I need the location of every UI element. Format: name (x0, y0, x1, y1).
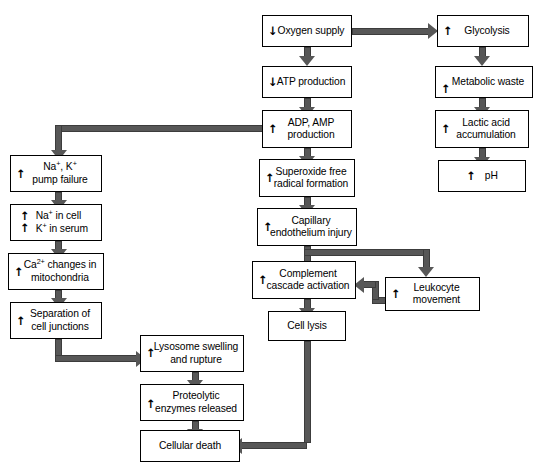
node-complement-cascade-activation[interactable]: ↑ Complementcascade activation (252, 261, 356, 299)
up-arrow-icon: ↑ (14, 266, 24, 277)
node-atp-production[interactable]: ↓ ATP production (262, 66, 352, 98)
node-label: Lactic acidaccumulation (438, 117, 526, 142)
node-oxygen-supply[interactable]: ↓ Oxygen supply (262, 15, 352, 47)
up-arrow-icon: ↑ (16, 315, 26, 326)
node-leukocyte-movement[interactable]: ↑ Leukocytemovement (385, 277, 480, 311)
node-label: Na+, K+pump failure (13, 161, 99, 186)
node-label: Lysosome swellingand rupture (143, 341, 241, 366)
up-arrow-icon: ↑ (146, 399, 156, 410)
row-label: K+ in serum (36, 223, 88, 235)
up-arrow-icon: ↑ (441, 124, 451, 135)
node-cellular-death[interactable]: Cellular death (140, 430, 240, 462)
up-arrow-icon: ↑ (441, 84, 451, 95)
node-proteolytic-enzymes-released[interactable]: ↑ Proteolyticenzymes released (140, 384, 244, 421)
node-lactic-acid-accumulation[interactable]: ↑ Lactic acidaccumulation (435, 110, 529, 148)
edge-oxygen-to-atp-head (299, 56, 315, 66)
edge-adp-to-pump-horizontal (55, 125, 263, 132)
node-label: Superoxide freeradical formation (262, 166, 352, 191)
up-arrow-icon: ↑ (16, 168, 26, 179)
edge-leukocyte-feedback-upper (362, 281, 376, 288)
up-arrow-icon: ↑ (466, 171, 476, 182)
node-label: Complementcascade activation (255, 268, 353, 293)
edge-capillary-to-leukocyte-head (418, 267, 434, 277)
down-arrow-icon: ↓ (268, 26, 278, 37)
up-arrow-icon: ↑ (146, 348, 156, 359)
edge-cell-lysis-horizontal (240, 442, 307, 449)
node-label: Proteolyticenzymes released (143, 390, 241, 415)
node-label: pH (479, 170, 498, 182)
node-label: Metabolic waste (438, 76, 530, 88)
flowchart-canvas: ↓ Oxygen supply ↓ ATP production ↑ ADP, … (0, 0, 536, 473)
up-arrow-icon: ↑ (391, 289, 401, 300)
up-arrow-icon: ↑ (265, 173, 275, 184)
up-arrow-icon: ↑ (258, 275, 268, 286)
up-arrow-icon: ↑ (20, 223, 30, 234)
node-separation-of-cell-junctions[interactable]: ↑ Separation ofcell junctions (10, 302, 102, 339)
edge-separation-to-lysosome-horizontal (55, 355, 139, 362)
node-lysosome-swelling-and-rupture[interactable]: ↑ Lysosome swellingand rupture (140, 335, 244, 372)
node-superoxide-free-radical-formation[interactable]: ↑ Superoxide freeradical formation (259, 159, 355, 197)
node-adp-amp-production[interactable]: ↑ ADP, AMPproduction (262, 110, 352, 148)
up-arrow-icon: ↑ (20, 211, 30, 222)
node-label: Ca2+ changes inmitochondria (11, 259, 101, 284)
node-na-in-cell-k-in-serum[interactable]: ↑ Na+ in cell ↑ K+ in serum (10, 204, 102, 241)
node-label-rows: ↑ Na+ in cell ↑ K+ in serum (13, 210, 88, 235)
edge-glycolysis-to-waste-head (474, 56, 490, 66)
node-capillary-endothelium-injury[interactable]: ↑ Capillaryendothelium injury (257, 208, 357, 246)
edge-oxygen-to-glycolysis (352, 28, 430, 35)
up-arrow-icon: ↑ (268, 124, 278, 135)
row-k-in-serum: ↑ K+ in serum (20, 223, 88, 235)
node-metabolic-waste[interactable]: ↑ Metabolic waste (435, 66, 533, 98)
node-na-k-pump-failure[interactable]: ↑ Na+, K+pump failure (10, 155, 102, 192)
node-cell-lysis[interactable]: Cell lysis (268, 311, 346, 341)
edge-capillary-to-leukocyte-horizontal (304, 249, 430, 256)
node-glycolysis[interactable]: ↑ Glycolysis (437, 15, 529, 47)
node-label: Glycolysis (440, 25, 526, 37)
node-label: Leukocytemovement (388, 282, 477, 307)
up-arrow-icon: ↑ (443, 26, 453, 37)
up-arrow-icon: ↑ (263, 222, 273, 233)
node-label: Capillaryendothelium injury (260, 215, 354, 240)
node-label: Separation ofcell junctions (13, 308, 99, 333)
edge-cell-lysis-vertical (304, 341, 311, 443)
node-label: Cellular death (159, 440, 221, 452)
node-label: Cell lysis (287, 320, 327, 332)
node-ph[interactable]: ↑ pH (438, 160, 526, 192)
down-arrow-icon: ↓ (268, 77, 278, 88)
node-ca-changes-in-mitochondria[interactable]: ↑ Ca2+ changes inmitochondria (8, 253, 104, 290)
